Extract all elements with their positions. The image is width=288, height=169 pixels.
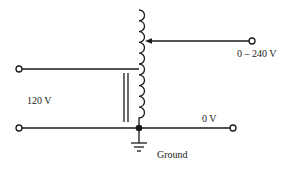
input-voltage-label: 120 V bbox=[27, 95, 52, 106]
ground-label: Ground bbox=[157, 149, 188, 160]
autotransformer-diagram: 0 – 240 V 120 V 0 V Ground bbox=[0, 0, 288, 169]
terminal-output-wiper bbox=[249, 38, 255, 44]
common-voltage-label: 0 V bbox=[202, 113, 217, 124]
coil-winding bbox=[139, 10, 145, 128]
ground-symbol-icon bbox=[131, 143, 147, 151]
junction-dot bbox=[136, 125, 143, 132]
wiper-arrowhead-icon bbox=[145, 38, 152, 44]
terminal-output-common bbox=[230, 125, 236, 131]
output-range-label: 0 – 240 V bbox=[237, 48, 277, 59]
terminal-input-bottom bbox=[16, 125, 22, 131]
terminal-input-top bbox=[16, 66, 22, 72]
